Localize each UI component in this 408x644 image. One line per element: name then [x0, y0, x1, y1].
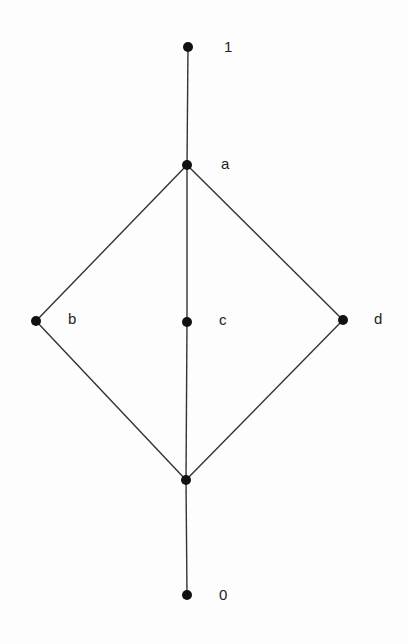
node-mid	[181, 475, 191, 485]
node-a	[182, 160, 192, 170]
node-label-top: 1	[224, 39, 232, 54]
node-d	[338, 315, 348, 325]
node-c	[182, 317, 192, 327]
nodes	[31, 42, 348, 600]
node-label-d: d	[374, 311, 382, 326]
node-b	[31, 316, 41, 326]
edge-a-b	[36, 165, 187, 321]
edge-d-mid	[186, 320, 343, 480]
lattice-diagram	[0, 0, 408, 644]
edge-mid-bottom	[186, 480, 187, 595]
node-label-a: a	[221, 156, 229, 171]
node-top	[183, 42, 193, 52]
node-label-c: c	[219, 312, 227, 327]
edge-top-a	[187, 47, 188, 165]
edge-b-mid	[36, 321, 186, 480]
edge-c-mid	[186, 322, 187, 480]
edge-a-d	[187, 165, 343, 320]
node-label-bottom: 0	[219, 587, 227, 602]
node-bottom	[182, 590, 192, 600]
node-label-b: b	[68, 311, 76, 326]
